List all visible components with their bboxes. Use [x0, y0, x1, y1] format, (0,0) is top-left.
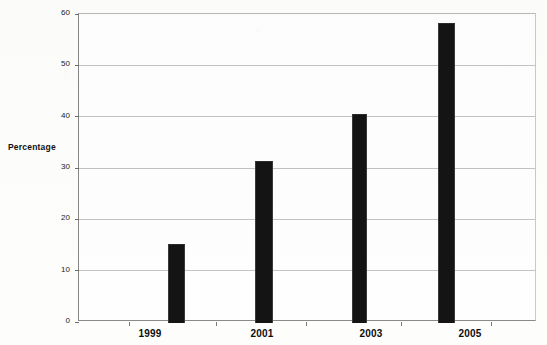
x-tick-mark [491, 322, 492, 326]
chart-page: Percentage 0102030405060 199920012003200… [0, 0, 547, 345]
x-axis-tick-label: 2005 [440, 328, 500, 339]
y-tick-mark [75, 65, 79, 66]
gridline [79, 65, 535, 66]
gridline [79, 219, 535, 220]
x-tick-mark [216, 322, 217, 326]
x-tick-mark [401, 322, 402, 326]
x-tick-mark [306, 322, 307, 326]
bar [352, 114, 367, 323]
y-axis-tick-label: 40 [52, 111, 70, 120]
x-axis-tick-label: 2003 [341, 328, 401, 339]
y-axis-tick-label: 10 [52, 265, 70, 274]
y-tick-mark [75, 219, 79, 220]
x-tick-mark [129, 322, 130, 326]
y-tick-mark [75, 270, 79, 271]
y-axis-tick-label: 60 [52, 8, 70, 17]
x-axis-tick-label: 2001 [232, 328, 292, 339]
y-axis-tick-label: 20 [52, 213, 70, 222]
y-axis-title: Percentage [8, 142, 56, 152]
x-axis-tick-label: 1999 [120, 328, 180, 339]
y-tick-mark [75, 116, 79, 117]
gridline [79, 168, 535, 169]
y-tick-mark [75, 168, 79, 169]
bar [168, 244, 185, 323]
gridline [79, 270, 535, 271]
plot-area [78, 13, 536, 321]
y-tick-mark [75, 14, 79, 15]
y-tick-mark [75, 322, 79, 323]
bar [438, 23, 455, 323]
gridline [79, 116, 535, 117]
bar [255, 161, 273, 323]
y-axis-tick-label: 0 [52, 316, 70, 325]
y-axis-tick-label: 30 [52, 162, 70, 171]
y-axis-tick-label: 50 [52, 59, 70, 68]
